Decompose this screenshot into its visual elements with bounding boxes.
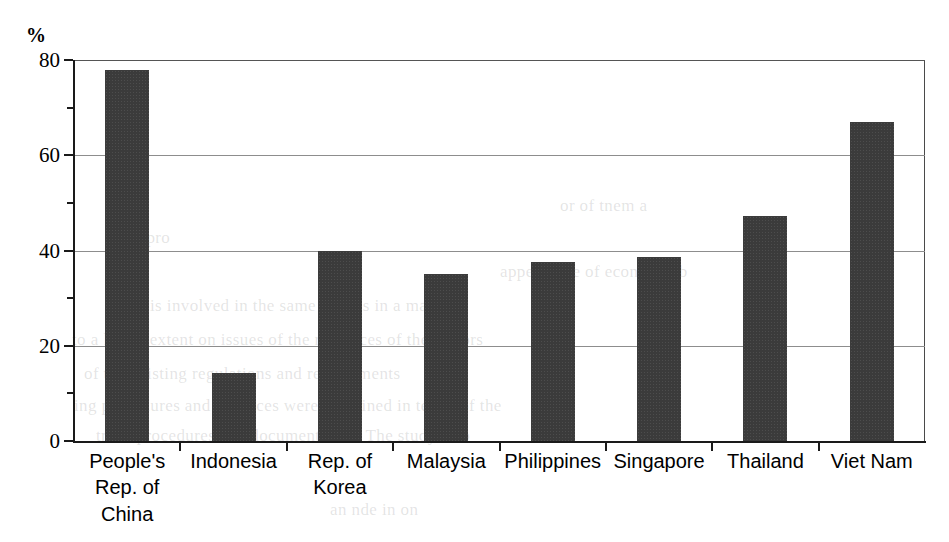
bar [105,70,149,441]
bar [743,216,787,441]
y-tick-minor-30 [67,297,73,299]
y-tick-minor-70 [67,107,73,109]
category-label: Rep. of Korea [287,448,393,501]
category-label: People's Rep. of China [74,448,180,527]
y-axis-unit-label: % [26,24,46,47]
y-tick-label-60: 60 [39,145,60,166]
category-label: Philippines [500,448,606,474]
y-tick-minor-10 [67,392,73,394]
y-axis: 020406080 [73,60,75,442]
y-tick-minor-50 [67,202,73,204]
y-tick-80 [64,59,73,61]
y-tick-label-80: 80 [39,50,60,71]
gridline-80 [74,60,925,61]
category-label: Malaysia [393,448,499,474]
gridline-60 [74,155,925,156]
x-axis-category-labels: People's Rep. of ChinaIndonesiaRep. of K… [74,448,925,540]
category-label: Singapore [606,448,712,474]
plot-area [74,60,925,441]
gridline-20 [74,346,925,347]
category-label: Indonesia [180,448,286,474]
category-label: Thailand [712,448,818,474]
bar [850,122,894,441]
category-label: Viet Nam [819,448,925,474]
bar-chart-figure: or of tnem ale in proappearance of econo… [0,0,949,542]
y-tick-label-0: 0 [50,431,61,452]
bar [531,262,575,441]
x-axis [73,441,926,443]
gridline-40 [74,251,925,252]
bar [212,373,256,441]
y-tick-60 [64,154,73,156]
bar [424,274,468,441]
y-tick-20 [64,345,73,347]
y-tick-0 [64,440,73,442]
y-tick-label-40: 40 [39,240,60,261]
y-tick-label-20: 20 [39,335,60,356]
bar [318,251,362,442]
y-tick-40 [64,250,73,252]
bar [637,257,681,441]
